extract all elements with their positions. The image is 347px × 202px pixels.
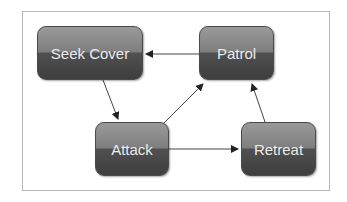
node-label: Attack — [111, 141, 153, 158]
node-patrol[interactable]: Patrol — [199, 26, 274, 80]
edge-seek-cover-to-attack — [103, 80, 118, 119]
node-attack[interactable]: Attack — [95, 122, 169, 176]
node-label: Retreat — [254, 141, 303, 158]
edge-attack-to-patrol — [163, 84, 203, 124]
node-label: Patrol — [217, 45, 256, 62]
node-seek-cover[interactable]: Seek Cover — [37, 26, 143, 80]
edge-retreat-to-patrol — [252, 84, 265, 122]
node-label: Seek Cover — [51, 45, 129, 62]
node-retreat[interactable]: Retreat — [241, 122, 316, 176]
